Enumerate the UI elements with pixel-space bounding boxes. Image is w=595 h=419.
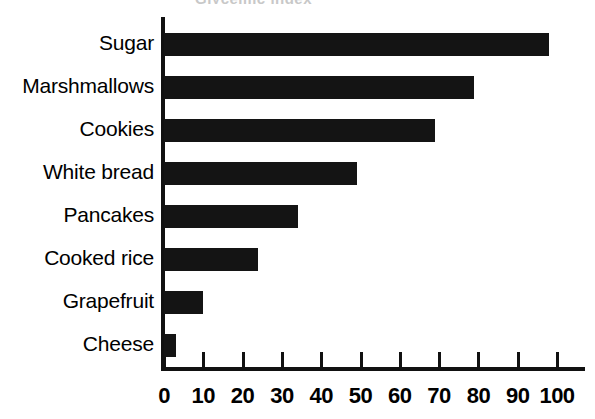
category-label: Grapefruit — [63, 289, 154, 313]
bar — [164, 76, 474, 99]
plot-area: 0102030405060708090100 SugarMarshmallows… — [0, 0, 595, 419]
x-axis-tick-label: 70 — [427, 383, 450, 409]
category-label: Cheese — [83, 332, 154, 356]
category-label: Cookies — [80, 117, 154, 141]
category-label: White bread — [43, 160, 154, 184]
x-axis-tick-label: 30 — [270, 383, 293, 409]
category-label: Pancakes — [63, 203, 154, 227]
x-axis-tick-label: 100 — [539, 383, 574, 409]
x-axis-tick-label: 50 — [349, 383, 372, 409]
bar — [164, 162, 357, 185]
x-axis-tick-label: 10 — [192, 383, 215, 409]
bar-row: Cooked rice — [0, 240, 595, 283]
bar — [164, 119, 435, 142]
x-axis-tick-label: 0 — [158, 383, 170, 409]
bar-row: Grapefruit — [0, 283, 595, 326]
x-axis-tick-label: 40 — [309, 383, 332, 409]
bar — [164, 334, 176, 357]
bar-row: Sugar — [0, 25, 595, 68]
category-label: Sugar — [99, 31, 154, 55]
x-axis-tick-label: 90 — [506, 383, 529, 409]
bar-row: Marshmallows — [0, 68, 595, 111]
bar — [164, 291, 203, 314]
bar-row: White bread — [0, 154, 595, 197]
category-label: Marshmallows — [22, 74, 154, 98]
x-axis-tick-label: 60 — [388, 383, 411, 409]
bar-chart: Glycemic index 0102030405060708090100 Su… — [0, 0, 595, 419]
bar-row: Cheese — [0, 326, 595, 369]
x-axis-tick-label: 80 — [467, 383, 490, 409]
x-axis-tick-label: 20 — [231, 383, 254, 409]
bar — [164, 205, 298, 228]
bar-row: Pancakes — [0, 197, 595, 240]
bar — [164, 248, 258, 271]
category-label: Cooked rice — [44, 246, 154, 270]
bar — [164, 33, 549, 56]
bar-row: Cookies — [0, 111, 595, 154]
